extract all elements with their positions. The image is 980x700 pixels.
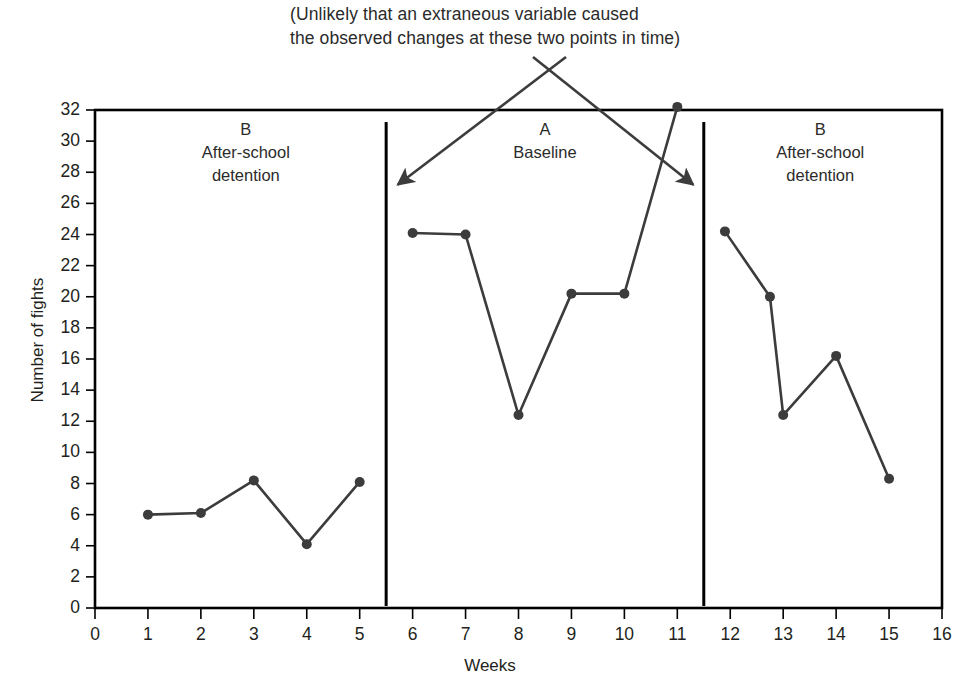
series-line xyxy=(725,231,889,478)
data-point-marker[interactable] xyxy=(408,228,418,238)
data-point-marker[interactable] xyxy=(461,230,471,240)
x-tick-label: 11 xyxy=(657,626,697,644)
y-tick-label: 0 xyxy=(34,599,80,617)
phase-condition-name: Baseline xyxy=(435,141,655,164)
data-point-marker[interactable] xyxy=(765,292,775,302)
x-tick-label: 7 xyxy=(446,626,486,644)
x-tick-label: 12 xyxy=(710,626,750,644)
y-tick-label: 28 xyxy=(34,163,80,181)
y-tick-label: 22 xyxy=(34,257,80,275)
data-point-marker[interactable] xyxy=(619,289,629,299)
x-tick-label: 0 xyxy=(75,626,115,644)
y-tick-label: 30 xyxy=(34,132,80,150)
y-tick-label: 14 xyxy=(34,381,80,399)
x-tick-label: 15 xyxy=(869,626,909,644)
phase-condition-name: After-school detention xyxy=(136,141,356,187)
y-tick-label: 12 xyxy=(34,412,80,430)
data-point-marker[interactable] xyxy=(884,474,894,484)
y-tick-label: 24 xyxy=(34,226,80,244)
data-point-marker[interactable] xyxy=(514,410,524,420)
x-tick-label: 10 xyxy=(604,626,644,644)
phase-letter: B xyxy=(136,118,356,141)
phase-label: BAfter-school detention xyxy=(710,118,930,187)
x-tick-label: 14 xyxy=(816,626,856,644)
x-tick-label: 8 xyxy=(499,626,539,644)
data-point-marker[interactable] xyxy=(196,508,206,518)
y-tick-label: 26 xyxy=(34,194,80,212)
series-line xyxy=(148,480,360,544)
x-tick-label: 1 xyxy=(128,626,168,644)
y-tick-label: 10 xyxy=(34,443,80,461)
data-point-marker[interactable] xyxy=(566,289,576,299)
data-point-marker[interactable] xyxy=(249,475,259,485)
x-tick-label: 16 xyxy=(922,626,962,644)
figure-canvas: (Unlikely that an extraneous variable ca… xyxy=(0,0,980,700)
data-point-marker[interactable] xyxy=(720,226,730,236)
x-tick-label: 3 xyxy=(234,626,274,644)
phase-label: BAfter-school detention xyxy=(136,118,356,187)
y-tick-label: 8 xyxy=(34,475,80,493)
y-tick-label: 2 xyxy=(34,568,80,586)
extraneous-variable-annotation: (Unlikely that an extraneous variable ca… xyxy=(290,2,760,50)
x-tick-label: 9 xyxy=(551,626,591,644)
data-point-marker[interactable] xyxy=(672,102,682,112)
line-chart-plot xyxy=(0,0,980,700)
y-tick-label: 32 xyxy=(34,101,80,119)
x-tick-label: 5 xyxy=(340,626,380,644)
y-tick-label: 18 xyxy=(34,319,80,337)
phase-letter: B xyxy=(710,118,930,141)
y-tick-label: 20 xyxy=(34,288,80,306)
y-tick-label: 4 xyxy=(34,537,80,555)
y-tick-label: 6 xyxy=(34,506,80,524)
phase-condition-name: After-school detention xyxy=(710,141,930,187)
data-point-marker[interactable] xyxy=(143,510,153,520)
x-tick-label: 6 xyxy=(393,626,433,644)
x-tick-label: 2 xyxy=(181,626,221,644)
x-tick-label: 4 xyxy=(287,626,327,644)
data-point-marker[interactable] xyxy=(831,351,841,361)
data-point-marker[interactable] xyxy=(778,410,788,420)
y-tick-label: 16 xyxy=(34,350,80,368)
phase-label: ABaseline xyxy=(435,118,655,164)
data-point-marker[interactable] xyxy=(302,539,312,549)
data-point-marker[interactable] xyxy=(355,477,365,487)
x-axis-title: Weeks xyxy=(0,656,980,676)
phase-divider-lines xyxy=(386,122,704,606)
phase-letter: A xyxy=(435,118,655,141)
x-tick-label: 13 xyxy=(763,626,803,644)
